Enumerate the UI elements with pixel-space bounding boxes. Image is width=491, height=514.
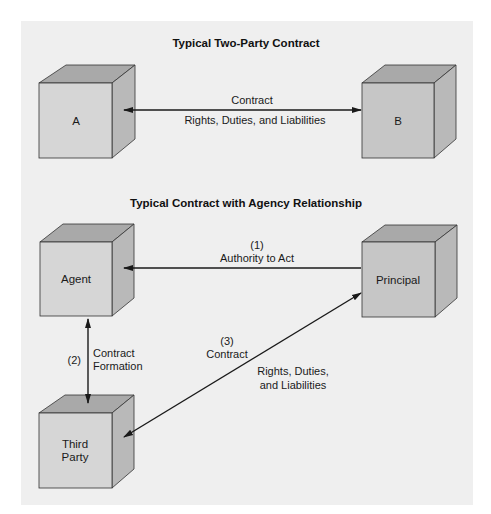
contract-label: Contract bbox=[231, 94, 273, 106]
formation-label-line1: Contract bbox=[93, 347, 135, 359]
principal-label: Principal bbox=[376, 274, 420, 286]
cube-b bbox=[362, 65, 456, 158]
agent-label: Agent bbox=[61, 273, 92, 285]
rights-label: Rights, Duties, and Liabilities bbox=[184, 114, 326, 126]
agency-diagram: Typical Two-Party Contract A B Contract … bbox=[0, 0, 491, 514]
rights-diagonal-line2: and Liabilities bbox=[260, 379, 327, 391]
formation-label-line2: Formation bbox=[93, 360, 143, 372]
cube-a bbox=[39, 65, 135, 158]
third-party-label-line2: Party bbox=[62, 451, 89, 463]
section1-title: Typical Two-Party Contract bbox=[172, 37, 319, 49]
party-b-label: B bbox=[394, 115, 402, 127]
contract-diagonal-label: Contract bbox=[206, 348, 248, 360]
authority-label: Authority to Act bbox=[220, 252, 294, 264]
third-party-label-line1: Third bbox=[62, 438, 88, 450]
contract-number: (3) bbox=[220, 335, 233, 347]
authority-number: (1) bbox=[250, 239, 263, 251]
rights-diagonal-line1: Rights, Duties, bbox=[257, 365, 329, 377]
party-a-label: A bbox=[72, 115, 80, 127]
cube-principal bbox=[362, 225, 457, 317]
section2-title: Typical Contract with Agency Relationshi… bbox=[130, 197, 362, 209]
formation-number: (2) bbox=[68, 354, 81, 366]
cube-agent bbox=[40, 224, 134, 316]
